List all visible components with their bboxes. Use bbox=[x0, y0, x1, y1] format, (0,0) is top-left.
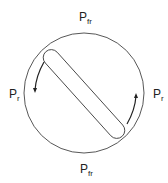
label-top: Pfr bbox=[79, 11, 92, 28]
label-bottom: Pfr bbox=[80, 163, 93, 180]
rod bbox=[40, 46, 128, 141]
label-right: Pr bbox=[153, 88, 164, 105]
arrow-left-icon bbox=[33, 62, 44, 93]
label-left: Pr bbox=[9, 88, 20, 105]
arrow-right-icon bbox=[127, 93, 138, 124]
outer-circle bbox=[24, 33, 144, 153]
